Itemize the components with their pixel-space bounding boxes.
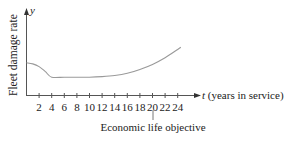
x-tick-label: 12	[97, 101, 108, 113]
x-tick-label: 24	[172, 101, 184, 113]
x-tick-label: 10	[84, 101, 96, 113]
x-tick-label: 8	[74, 101, 80, 113]
x-axis-title: t (years in service)	[202, 89, 284, 102]
x-tick-label: 2	[36, 101, 42, 113]
y-axis-title: Fleet damage rate	[7, 14, 20, 96]
x-tick-label: 22	[160, 101, 171, 113]
y-axis-arrow-icon	[24, 8, 29, 15]
x-tick-label: 16	[122, 101, 134, 113]
damage-rate-curve	[27, 47, 181, 77]
x-axis-suffix: (years in service)	[208, 89, 284, 102]
x-tick-label: 6	[62, 101, 68, 113]
x-tick-label: 14	[109, 101, 121, 113]
chart: 24681012141618202224 y Fleet damage rate…	[0, 0, 296, 143]
x-tick-label: 18	[134, 101, 146, 113]
x-axis-arrow-icon	[194, 93, 201, 98]
y-axis-symbol: y	[29, 4, 35, 16]
x-tick-label: 4	[49, 101, 55, 113]
x-axis-tick-labels: 24681012141618202224	[36, 101, 183, 113]
economic-life-annotation: Economic life objective	[100, 121, 205, 133]
x-axis-symbol: t	[202, 89, 206, 101]
